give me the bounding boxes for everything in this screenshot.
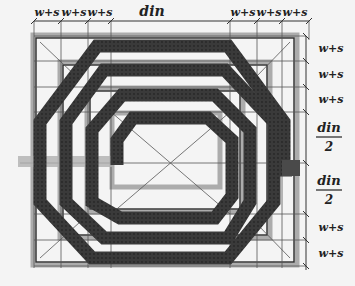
top-label-ws-2: w+s (62, 6, 87, 19)
right-label-ws-4: w+s (319, 221, 344, 234)
right-label-half-din-upper: din 2 (316, 120, 342, 154)
top-label-ws-4: w+s (231, 6, 256, 19)
top-label-ws-3: w+s (88, 6, 113, 19)
spiral-inductor-diagram: w+s w+s w+s din w+s w+s w+s w+s w+s w+s … (0, 0, 355, 286)
spiral-trace (40, 46, 292, 258)
top-label-ws-1: w+s (35, 6, 60, 19)
right-label-half-din-lower: din 2 (316, 173, 342, 207)
right-label-ws-3: w+s (319, 93, 344, 106)
terminal-pad-right (282, 160, 300, 176)
svg-text:2: 2 (324, 193, 333, 207)
svg-text:din: din (317, 120, 340, 135)
svg-text:din: din (317, 173, 340, 188)
top-label-din: din (139, 3, 164, 19)
svg-text:2: 2 (324, 140, 333, 154)
right-label-ws-1: w+s (319, 42, 344, 55)
top-label-ws-6: w+s (283, 6, 308, 19)
right-label-ws-5: w+s (319, 247, 344, 260)
right-dimension-line (303, 33, 309, 270)
top-label-ws-5: w+s (257, 6, 282, 19)
right-label-ws-2: w+s (319, 68, 344, 81)
